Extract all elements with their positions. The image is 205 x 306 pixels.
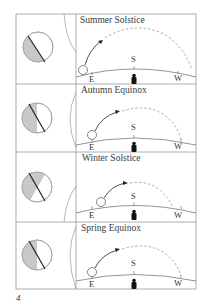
panel-title: Spring Equinox	[81, 223, 141, 233]
panel-winter-solstice: Winter Solstice E S W	[22, 153, 196, 222]
seasons-sun-path-diagram: Summer Solstice E S W Autumn Equinox	[0, 0, 205, 306]
observer-person-icon	[132, 279, 137, 289]
panel-title: Autumn Equinox	[81, 85, 147, 95]
earth-globe-icon	[23, 32, 53, 62]
sun-rise-arrow	[85, 41, 101, 65]
sun-rise-arrow	[104, 183, 125, 198]
south-label: S	[131, 258, 136, 268]
panel-spring-equinox: Spring Equinox E S W	[22, 223, 196, 289]
observer-person-icon	[132, 210, 137, 220]
earth-globe-icon	[22, 240, 52, 270]
orbit-arc	[70, 226, 76, 289]
west-label: W	[174, 210, 182, 220]
orbit-arc	[70, 92, 76, 148]
earth-globe-icon	[22, 172, 52, 202]
west-label: W	[174, 73, 182, 83]
orbit-arc	[64, 14, 76, 52]
orbit-arc	[64, 186, 76, 222]
panel-title: Winter Solstice	[82, 153, 140, 163]
east-label: E	[89, 74, 94, 84]
sun-path-dashed	[130, 182, 172, 206]
observer-person-icon	[132, 142, 137, 152]
sun-icon	[88, 131, 97, 140]
south-label: S	[131, 54, 136, 64]
sun-path-dashed	[105, 28, 192, 70]
observer-person-icon	[132, 74, 137, 84]
south-label: S	[131, 191, 136, 201]
panel-title: Summer Solstice	[80, 15, 145, 25]
earth-globe-icon	[22, 103, 52, 133]
sun-rise-arrow	[95, 250, 117, 268]
west-label: W	[174, 141, 182, 151]
south-label: S	[131, 122, 136, 132]
west-label: W	[174, 278, 182, 288]
east-label: E	[89, 210, 94, 220]
sun-icon	[88, 268, 97, 277]
panel-autumn-equinox: Autumn Equinox E S W	[22, 85, 196, 152]
east-label: E	[89, 279, 94, 289]
east-label: E	[89, 142, 94, 152]
sun-icon	[79, 66, 88, 75]
page-number: 4	[16, 293, 21, 303]
sun-icon	[97, 198, 106, 207]
panel-summer-solstice: Summer Solstice E S W	[23, 14, 196, 84]
sun-rise-arrow	[95, 112, 117, 131]
